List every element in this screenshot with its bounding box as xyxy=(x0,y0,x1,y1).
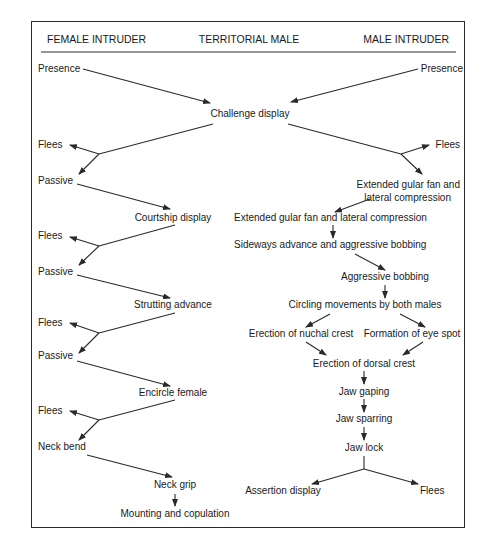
node-flees-female-1: Flees xyxy=(38,139,62,151)
node-circling-movements: Circling movements by both males xyxy=(289,299,442,311)
node-formation-eye-spot: Formation of eye spot xyxy=(364,328,461,340)
node-flees-female-4: Flees xyxy=(38,405,62,417)
node-passive-3: Passive xyxy=(38,350,73,362)
node-flees-female-3: Flees xyxy=(38,317,62,329)
node-extended-gular-territorial: Extended gular fan and lateral compressi… xyxy=(234,212,427,224)
node-encircle-female: Encircle female xyxy=(139,387,207,399)
node-passive-2: Passive xyxy=(38,266,73,278)
node-extended-gular-intruder-1: Extended gular fan and xyxy=(357,179,460,191)
node-jaw-lock: Jaw lock xyxy=(345,442,383,454)
node-mounting-copulation: Mounting and copulation xyxy=(121,508,230,520)
node-neck-grip: Neck grip xyxy=(154,479,196,491)
header-female-intruder: FEMALE INTRUDER xyxy=(47,33,146,45)
node-sideways-advance: Sideways advance and aggressive bobbing xyxy=(234,239,426,251)
node-challenge-display: Challenge display xyxy=(211,108,290,120)
node-jaw-gaping: Jaw gaping xyxy=(339,386,390,398)
node-assertion-display: Assertion display xyxy=(245,485,321,497)
node-courtship-display: Courtship display xyxy=(135,212,212,224)
node-flees-female-2: Flees xyxy=(38,230,62,242)
node-flees-male-2: Flees xyxy=(420,485,444,497)
node-strutting-advance: Strutting advance xyxy=(134,299,212,311)
node-extended-gular-intruder-2: lateral compression xyxy=(364,192,451,204)
node-presence-male: Presence xyxy=(421,63,463,75)
header-male-intruder: MALE INTRUDER xyxy=(363,33,449,45)
node-flees-male-1: Flees xyxy=(436,139,460,151)
node-jaw-sparring: Jaw sparring xyxy=(336,413,393,425)
node-aggressive-bobbing: Aggressive bobbing xyxy=(341,271,429,283)
header-territorial-male: TERRITORIAL MALE xyxy=(199,33,299,45)
node-presence-female: Presence xyxy=(38,63,80,75)
node-passive-1: Passive xyxy=(38,175,73,187)
node-neck-bend: Neck bend xyxy=(38,441,86,453)
node-erection-nuchal-crest: Erection of nuchal crest xyxy=(249,328,354,340)
node-erection-dorsal-crest: Erection of dorsal crest xyxy=(313,358,415,370)
